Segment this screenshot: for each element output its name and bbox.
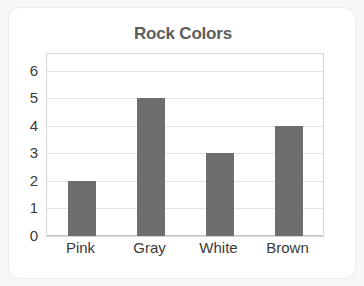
x-axis: PinkGrayWhiteBrown	[46, 240, 324, 264]
x-axis-tick-label: Pink	[66, 240, 95, 257]
y-axis-tick-label: 0	[30, 228, 38, 243]
chart-card: Rock Colors 0123456 PinkGrayWhiteBrown	[8, 7, 356, 279]
x-axis-tick-label: Brown	[266, 240, 309, 257]
y-axis-tick-label: 3	[30, 145, 38, 160]
plot-area	[46, 53, 324, 237]
bar	[275, 126, 303, 236]
y-axis-tick-label: 5	[30, 90, 38, 105]
x-axis-tick-label: Gray	[133, 240, 166, 257]
y-axis-tick-label: 2	[30, 172, 38, 187]
y-axis-tick-label: 6	[30, 62, 38, 77]
y-axis: 0123456	[9, 53, 42, 237]
y-axis-tick-label: 1	[30, 200, 38, 215]
x-axis-tick-label: White	[199, 240, 237, 257]
bar	[137, 98, 165, 236]
bar	[206, 153, 234, 236]
bars-layer	[47, 54, 323, 236]
bar	[68, 181, 96, 236]
y-axis-tick-label: 4	[30, 117, 38, 132]
chart-title: Rock Colors	[9, 24, 357, 44]
